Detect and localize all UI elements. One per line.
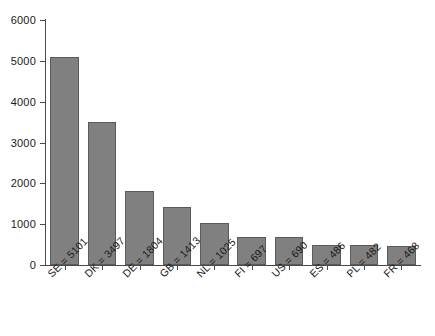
y-tick-mark (40, 224, 45, 225)
bar (50, 57, 78, 265)
plot-area (46, 20, 420, 265)
y-tick-label: 0 (30, 259, 36, 271)
y-tick-label: 6000 (11, 14, 36, 26)
y-tick-label: 3000 (11, 137, 36, 149)
bar-chart-figure: 0100020003000400050006000 SE = 5101DK = … (0, 0, 435, 336)
y-tick-label: 2000 (11, 177, 36, 189)
y-tick-mark (40, 265, 45, 266)
y-tick-mark (40, 143, 45, 144)
y-tick-mark (40, 20, 45, 21)
y-tick-mark (40, 102, 45, 103)
y-tick-label: 4000 (11, 96, 36, 108)
y-tick-label: 1000 (11, 218, 36, 230)
y-tick-mark (40, 61, 45, 62)
y-tick-mark (40, 183, 45, 184)
y-tick-label: 5000 (11, 55, 36, 67)
